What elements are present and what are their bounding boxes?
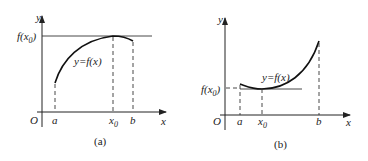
tick-x0: x0 xyxy=(108,114,118,129)
y-axis-label: y xyxy=(217,13,223,25)
origin-label: O xyxy=(213,115,221,127)
tick-a: a xyxy=(52,114,58,126)
caption-a: (a) xyxy=(94,135,107,148)
tick-a: a xyxy=(237,115,243,127)
tick-x0: x0 xyxy=(257,115,267,130)
origin-label: O xyxy=(30,114,38,126)
tick-b: b xyxy=(130,114,136,126)
x-axis-label: x xyxy=(160,115,166,127)
curve-label: y=f(x) xyxy=(261,71,290,84)
panel-b: y f(x0) y=f(x) O a x0 b x (b) xyxy=(201,13,351,151)
tick-b: b xyxy=(316,115,322,127)
y-axis-label: y xyxy=(35,11,41,23)
figure-canvas: y f(x0) y=f(x) O a x0 b x (a) y f(x0) y=… xyxy=(0,0,368,161)
panel-a: y f(x0) y=f(x) O a x0 b x (a) xyxy=(17,11,166,148)
curve-label: y=f(x) xyxy=(73,55,102,68)
fx0-label: f(x0) xyxy=(201,83,221,98)
caption-b: (b) xyxy=(274,138,287,151)
x-axis-label: x xyxy=(345,116,351,128)
fx0-label: f(x0) xyxy=(17,30,37,45)
